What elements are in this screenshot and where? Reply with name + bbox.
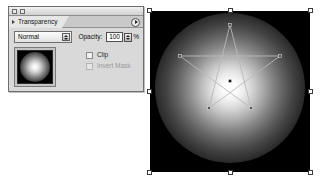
star-path-overlay xyxy=(150,11,310,172)
blend-opacity-row: Normal Opacity: 100 % xyxy=(14,31,139,43)
panel-menu-icon[interactable] xyxy=(131,18,140,27)
selection-handle-top-right[interactable] xyxy=(308,8,313,13)
panel-menu-triangle-icon xyxy=(135,20,138,24)
selection-handle-bottom-left[interactable] xyxy=(147,170,152,175)
mask-options: Clip Invert Mask xyxy=(86,52,131,74)
chevron-updown-icon[interactable] xyxy=(62,33,70,41)
opacity-input[interactable]: 100 xyxy=(106,32,123,42)
opacity-stepper[interactable] xyxy=(124,33,132,42)
blend-mode-value: Normal xyxy=(15,34,39,41)
invert-mask-label: Invert Mask xyxy=(97,63,131,70)
tab-label: Transparency xyxy=(18,19,58,26)
opacity-value: 100 xyxy=(109,34,120,41)
checkbox-row-clip[interactable]: Clip xyxy=(86,52,131,59)
thumbnail-image xyxy=(17,50,53,84)
blend-mode-select[interactable]: Normal xyxy=(14,31,72,43)
radial-glow-icon xyxy=(20,52,50,82)
invert-mask-checkbox[interactable] xyxy=(86,63,93,70)
opacity-label: Opacity: xyxy=(78,34,102,41)
selected-star-artwork[interactable] xyxy=(150,11,310,172)
triangle-right-icon xyxy=(12,20,15,24)
anchor-point xyxy=(179,55,182,58)
selection-handle-middle-right[interactable] xyxy=(308,89,313,94)
tab-transparency[interactable]: Transparency xyxy=(9,16,63,28)
selection-handle-top-left[interactable] xyxy=(147,8,152,13)
transparency-palette[interactable]: Transparency Normal Opacity: 100 % xyxy=(8,6,144,92)
zoom-widget[interactable] xyxy=(20,9,25,14)
selection-handle-bottom-center[interactable] xyxy=(228,170,233,175)
collapse-widget[interactable] xyxy=(12,9,17,14)
center-anchor-point xyxy=(228,79,232,83)
palette-body: Normal Opacity: 100 % xyxy=(9,28,143,91)
opacity-mask-thumbnail[interactable] xyxy=(14,47,56,87)
thumbnail-options-row: Clip Invert Mask xyxy=(14,47,139,87)
checkbox-row-invert-mask[interactable]: Invert Mask xyxy=(86,63,131,70)
anchor-point xyxy=(229,24,232,27)
opacity-unit: % xyxy=(133,34,139,41)
selection-handle-top-center[interactable] xyxy=(228,8,233,13)
selection-handle-middle-left[interactable] xyxy=(147,89,152,94)
selection-handle-bottom-right[interactable] xyxy=(308,170,313,175)
clip-checkbox[interactable] xyxy=(86,52,93,59)
anchor-point xyxy=(279,55,282,58)
anchor-point xyxy=(250,107,253,110)
palette-titlebar[interactable] xyxy=(9,7,143,16)
anchor-point xyxy=(208,107,211,110)
clip-label: Clip xyxy=(97,52,108,59)
palette-tabstrip: Transparency xyxy=(9,16,143,28)
star-path xyxy=(180,25,280,108)
